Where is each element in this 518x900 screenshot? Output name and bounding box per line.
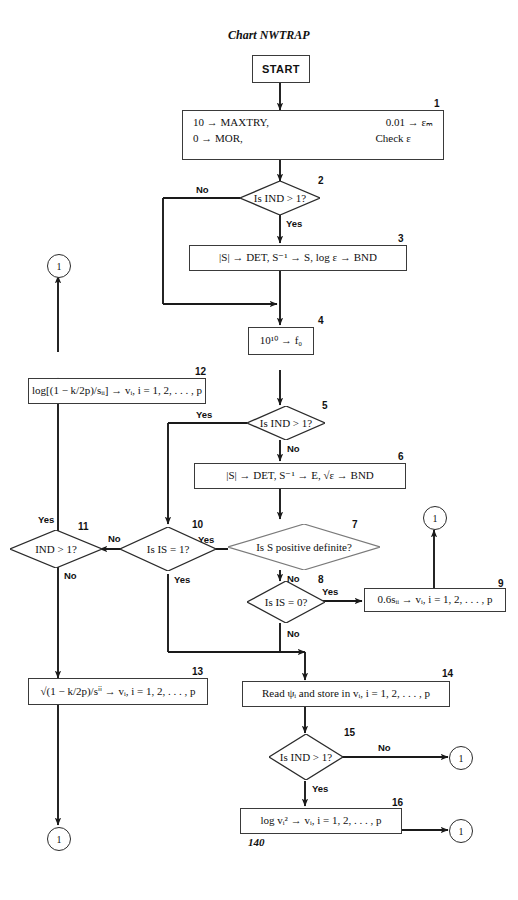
decision-diamond-7: Is S positive definite? bbox=[228, 524, 380, 570]
box1-line2-right: Check ε bbox=[352, 131, 433, 147]
process-box-14: Read ψᵢ and store in vᵢ, i = 1, 2, . . .… bbox=[242, 681, 450, 707]
step-number-15: 15 bbox=[344, 727, 355, 738]
edge-label-10-yes: Yes bbox=[174, 574, 190, 585]
step-number-16: 16 bbox=[392, 797, 403, 808]
decision-10-label: Is IS = 1? bbox=[120, 527, 216, 571]
step-number-12: 12 bbox=[195, 366, 206, 377]
decision-5-label: Is IND > 1? bbox=[247, 406, 325, 440]
box1-line1-left: 10 → MAXTRY, bbox=[193, 115, 269, 131]
decision-diamond-10: Is IS = 1? bbox=[120, 527, 216, 571]
decision-11-label: IND > 1? bbox=[10, 530, 102, 568]
decision-diamond-5: Is IND > 1? bbox=[247, 406, 325, 440]
step-number-14: 14 bbox=[442, 668, 453, 679]
process-box-12: log[(1 − k/2p)/sᵢᵢ] → vᵢ, i = 1, 2, . . … bbox=[28, 378, 206, 404]
process-box-1: 10 → MAXTRY, 0.01 → εₘ 0 → MOR, Check ε bbox=[182, 110, 444, 160]
decision-diamond-11: IND > 1? bbox=[10, 530, 102, 568]
decision-2-label: Is IND > 1? bbox=[240, 181, 320, 215]
chart-title: Chart NWTRAP bbox=[228, 28, 310, 43]
step-number-3: 3 bbox=[398, 233, 404, 244]
flowchart-page: Chart NWTRAP START 1 10 → MAXTRY, 0.01 →… bbox=[0, 0, 518, 900]
box1-line1-right: 0.01 → εₘ bbox=[362, 115, 433, 131]
edge-label-15-yes: Yes bbox=[312, 783, 328, 794]
edge-label-2-yes: Yes bbox=[286, 218, 302, 229]
connector-circle-left-bottom: 1 bbox=[47, 827, 71, 851]
process-box-9: 0.6sᵢᵢ → vᵢ, i = 1, 2, . . . , p bbox=[364, 588, 506, 612]
edge-label-2-no: No bbox=[196, 184, 209, 195]
decision-7-label: Is S positive definite? bbox=[228, 524, 380, 570]
process-box-4: 10¹⁰ → f₀ bbox=[248, 327, 314, 355]
connector-circle-left-top: 1 bbox=[47, 254, 71, 278]
edge-label-5-no: No bbox=[287, 443, 300, 454]
edge-label-8-yes: Yes bbox=[322, 586, 338, 597]
connector-circle-right-d15: 1 bbox=[449, 746, 473, 770]
edge-label-5-yes: Yes bbox=[196, 409, 212, 420]
process-box-3: |S| → DET, S⁻¹ → S, log ε → BND bbox=[189, 245, 407, 271]
decision-15-label: Is IND > 1? bbox=[269, 734, 343, 780]
start-terminal: START bbox=[252, 55, 310, 83]
edge-label-11-no: No bbox=[64, 570, 77, 581]
connector-circle-right-b16: 1 bbox=[449, 819, 473, 843]
box1-line2-left: 0 → MOR, bbox=[193, 131, 243, 147]
decision-diamond-8: Is IS = 0? bbox=[247, 581, 325, 623]
edge-label-8-no: No bbox=[287, 628, 300, 639]
page-number: 140 bbox=[248, 836, 265, 848]
step-number-4: 4 bbox=[318, 315, 324, 326]
connector-circle-right-mid: 1 bbox=[423, 506, 447, 530]
step-number-13: 13 bbox=[192, 666, 203, 677]
decision-8-label: Is IS = 0? bbox=[247, 581, 325, 623]
process-box-6: |S| → DET, S⁻¹ → E, √ε → BND bbox=[194, 463, 406, 489]
process-box-16: log vᵢ² → vᵢ, i = 1, 2, . . . , p bbox=[240, 808, 402, 834]
step-number-1: 1 bbox=[434, 98, 440, 109]
process-box-13: √(1 − k/2p)/sⁱⁱ → vᵢ, i = 1, 2, . . . , … bbox=[28, 678, 208, 705]
decision-diamond-15: Is IND > 1? bbox=[269, 734, 343, 780]
edge-label-10-no: No bbox=[108, 533, 121, 544]
edge-label-15-no: No bbox=[378, 742, 391, 753]
decision-diamond-2: Is IND > 1? bbox=[240, 181, 320, 215]
edge-label-11-yes: Yes bbox=[38, 514, 54, 525]
step-number-6: 6 bbox=[398, 451, 404, 462]
